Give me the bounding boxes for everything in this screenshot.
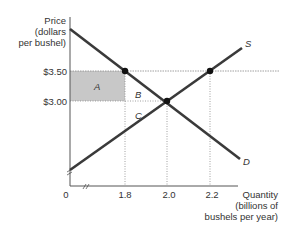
y-tick-3-00: $3.00 [43,96,67,107]
region-b-label: B [135,89,142,100]
supply-demand-chart: S D A B C $3.50 $3.00 0 1.8 2.0 2.2 Pric… [0,0,293,230]
y-axis-title-line-2: (dollars [35,26,66,37]
y-axis-title-line-1: Price [44,15,66,26]
y-tick-3-50: $3.50 [43,66,67,77]
region-c-label: C [135,110,142,121]
x-tick-0: 0 [63,189,68,200]
x-axis-title-line-3: bushels per year) [205,211,278,222]
equilibrium-marker [164,98,170,104]
x-tick-2-2: 2.2 [205,189,218,200]
demand-label: D [243,156,250,167]
x-axis-title-line-1: Quantity [243,189,279,200]
region-a-label: A [93,81,100,92]
marker-1-8-3-50 [122,68,128,74]
x-tick-2-0: 2.0 [162,189,175,200]
x-tick-1-8: 1.8 [118,189,131,200]
x-axis-title-line-2: (billions of [235,200,278,211]
y-axis-title-line-3: per bushel) [18,37,66,48]
marker-2-2-3-50 [207,68,213,74]
supply-label: S [245,38,252,49]
supply-curve [70,48,242,170]
